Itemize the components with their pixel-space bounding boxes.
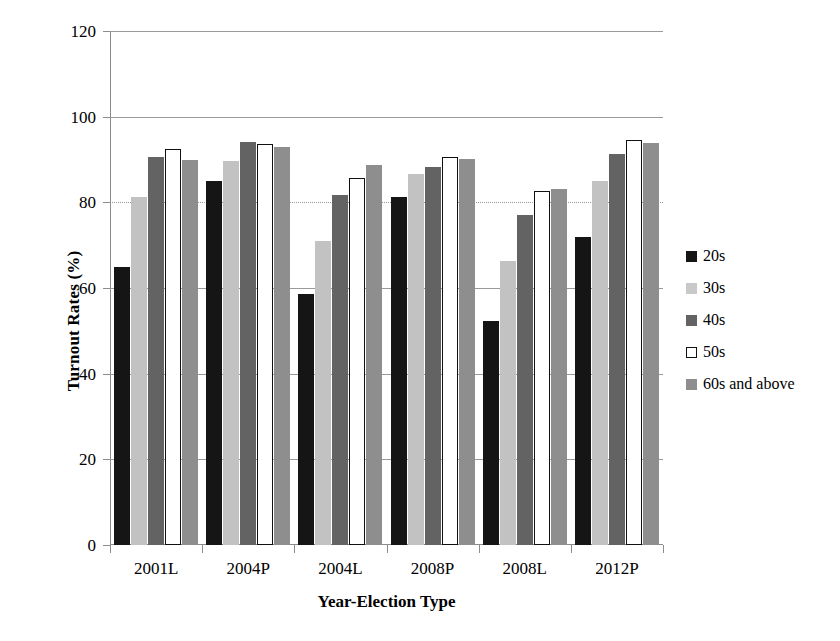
legend-swatch-icon — [686, 315, 697, 326]
y-tick-mark-80 — [103, 202, 110, 203]
y-tick-mark-60 — [103, 288, 110, 289]
y-tick-label-60: 60 — [50, 280, 96, 297]
legend-swatch-icon — [686, 379, 697, 390]
bar-2004L-40s[interactable] — [332, 195, 348, 545]
bar-group-2008P: 2008P — [387, 31, 479, 545]
x-tick-mark-end — [663, 545, 664, 553]
bar-group-2004P: 2004P — [202, 31, 294, 545]
bar-2008L-40s[interactable] — [517, 215, 533, 545]
x-tick-label-2001L: 2001L — [110, 559, 202, 579]
bar-2012P-60s-and-above[interactable] — [643, 143, 659, 545]
bar-2008L-60s-and-above[interactable] — [551, 189, 567, 545]
x-tick-label-2008P: 2008P — [387, 559, 479, 579]
bar-2004P-30s[interactable] — [223, 161, 239, 545]
x-tick-mark — [479, 545, 480, 553]
legend-item-30s[interactable]: 30s — [686, 280, 795, 296]
bar-2004P-50s[interactable] — [257, 144, 273, 545]
bar-2008P-30s[interactable] — [408, 174, 424, 545]
y-tick-label-0: 0 — [50, 537, 96, 554]
y-tick-mark-0 — [103, 545, 110, 546]
bar-2004P-40s[interactable] — [240, 142, 256, 545]
legend-label: 50s — [703, 344, 725, 360]
legend-swatch-icon — [686, 283, 697, 294]
bar-groups: 2001L2004P2004L2008P2008L2012P — [110, 31, 663, 545]
bar-2001L-20s[interactable] — [114, 267, 130, 545]
y-tick-mark-40 — [103, 374, 110, 375]
bar-2008L-30s[interactable] — [500, 261, 516, 545]
bar-group-2012P: 2012P — [571, 31, 663, 545]
x-tick-mark — [110, 545, 111, 553]
legend-item-60s-and-above[interactable]: 60s and above — [686, 376, 795, 392]
x-tick-mark — [571, 545, 572, 553]
bar-2008L-50s[interactable] — [534, 191, 550, 545]
bar-2004L-30s[interactable] — [315, 241, 331, 545]
bar-2012P-50s[interactable] — [626, 140, 642, 545]
bar-2008P-40s[interactable] — [425, 167, 441, 545]
x-tick-mark — [202, 545, 203, 553]
x-tick-label-2012P: 2012P — [571, 559, 663, 579]
legend-label: 60s and above — [703, 376, 795, 392]
legend-item-40s[interactable]: 40s — [686, 312, 795, 328]
x-tick-mark — [387, 545, 388, 553]
bar-2001L-30s[interactable] — [131, 197, 147, 545]
bar-2012P-40s[interactable] — [609, 154, 625, 545]
x-tick-label-2008L: 2008L — [479, 559, 571, 579]
legend-swatch-icon — [686, 347, 697, 358]
legend-swatch-icon — [686, 251, 697, 262]
x-axis-title: Year-Election Type — [110, 592, 663, 612]
bar-2004L-50s[interactable] — [349, 178, 365, 546]
bar-chart: Turnout Rates (%) 020406080100120 2001L2… — [0, 0, 840, 641]
bar-2004L-60s-and-above[interactable] — [366, 165, 382, 545]
bar-2004P-20s[interactable] — [206, 181, 222, 545]
bar-2012P-20s[interactable] — [575, 237, 591, 545]
legend-label: 40s — [703, 312, 725, 328]
y-tick-mark-20 — [103, 459, 110, 460]
y-tick-label-80: 80 — [50, 194, 96, 211]
plot-area: 020406080100120 2001L2004P2004L2008P2008… — [110, 31, 663, 545]
y-tick-label-100: 100 — [50, 108, 96, 125]
bar-2008P-60s-and-above[interactable] — [459, 159, 475, 545]
y-tick-label-40: 40 — [50, 365, 96, 382]
legend-item-50s[interactable]: 50s — [686, 344, 795, 360]
y-tick-label-20: 20 — [50, 451, 96, 468]
legend-label: 30s — [703, 280, 725, 296]
bar-group-2004L: 2004L — [294, 31, 386, 545]
bar-2004P-60s-and-above[interactable] — [274, 147, 290, 545]
bar-2008P-20s[interactable] — [391, 197, 407, 545]
legend-label: 20s — [703, 248, 725, 264]
bar-2008L-20s[interactable] — [483, 321, 499, 545]
y-tick-label-120: 120 — [50, 23, 96, 40]
bar-2012P-30s[interactable] — [592, 181, 608, 545]
legend: 20s30s40s50s60s and above — [686, 248, 795, 392]
x-tick-label-2004P: 2004P — [202, 559, 294, 579]
x-tick-label-2004L: 2004L — [294, 559, 386, 579]
bar-2001L-50s[interactable] — [165, 149, 181, 545]
legend-item-20s[interactable]: 20s — [686, 248, 795, 264]
y-tick-mark-120 — [103, 31, 110, 32]
bar-2008P-50s[interactable] — [442, 157, 458, 545]
bar-group-2001L: 2001L — [110, 31, 202, 545]
bar-2001L-60s-and-above[interactable] — [182, 160, 198, 545]
x-tick-mark — [294, 545, 295, 553]
bar-2004L-20s[interactable] — [298, 294, 314, 545]
bar-group-2008L: 2008L — [479, 31, 571, 545]
y-tick-mark-100 — [103, 117, 110, 118]
bar-2001L-40s[interactable] — [148, 157, 164, 545]
